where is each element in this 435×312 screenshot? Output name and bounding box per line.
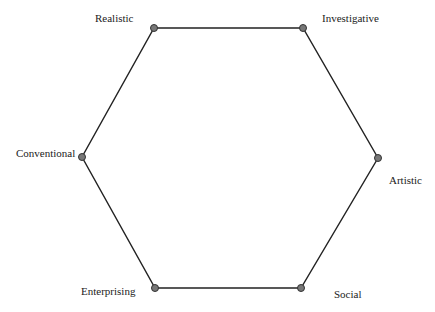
node-investigative (300, 25, 307, 32)
node-realistic (151, 25, 158, 32)
node-artistic (375, 155, 382, 162)
riasec-hexagon-diagram: Realistic Investigative Artistic Social … (0, 0, 435, 312)
node-social (298, 285, 305, 292)
node-enterprising (152, 285, 159, 292)
label-social: Social (334, 288, 362, 300)
label-artistic: Artistic (389, 174, 422, 186)
label-conventional: Conventional (16, 147, 75, 159)
label-investigative: Investigative (322, 12, 379, 24)
hexagon-outline (82, 28, 378, 288)
node-conventional (79, 154, 86, 161)
label-realistic: Realistic (95, 12, 134, 24)
label-enterprising: Enterprising (81, 285, 136, 297)
